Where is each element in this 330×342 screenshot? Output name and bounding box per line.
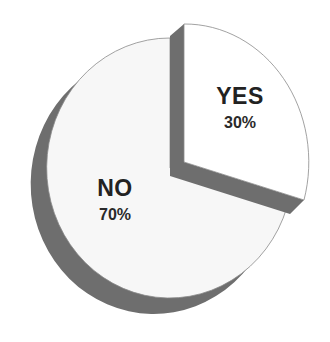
yes-label-name: YES — [205, 85, 275, 108]
pie-chart — [0, 0, 330, 342]
yes-label-percent: 30% — [205, 115, 275, 131]
no-label-name: NO — [85, 177, 145, 200]
no-label-percent: 70% — [85, 207, 145, 223]
yes-slice-label: YES 30% — [205, 85, 275, 131]
no-slice-label: NO 70% — [85, 177, 145, 223]
